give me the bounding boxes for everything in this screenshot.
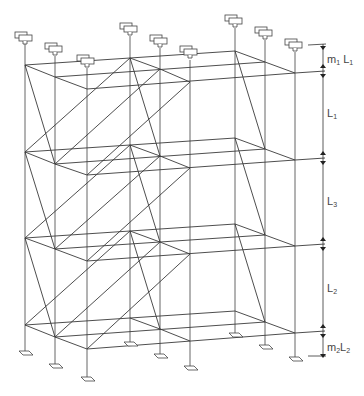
jack-icon — [15, 32, 32, 44]
jack-icon — [77, 55, 94, 67]
braces — [25, 51, 265, 349]
jack-icon — [150, 35, 167, 47]
dim-label-lift-2: L2 — [327, 283, 337, 295]
base-plates — [19, 333, 303, 381]
dim-label-top-extension: m1 L1 — [327, 54, 353, 66]
jack-icon — [45, 43, 62, 55]
jack-icon — [285, 39, 302, 51]
jack-icon — [180, 46, 197, 58]
jack-icon — [225, 15, 242, 27]
dim-label-bottom-extension: m2L2 — [327, 342, 350, 354]
dim-label-lift-3: L3 — [327, 196, 337, 208]
dimension-line — [308, 44, 326, 358]
jack-icon — [120, 23, 137, 35]
top-jacks — [15, 15, 302, 67]
scaffold-diagram — [0, 0, 364, 396]
dim-label-lift-1: L1 — [327, 108, 337, 120]
jack-icon — [255, 27, 272, 39]
